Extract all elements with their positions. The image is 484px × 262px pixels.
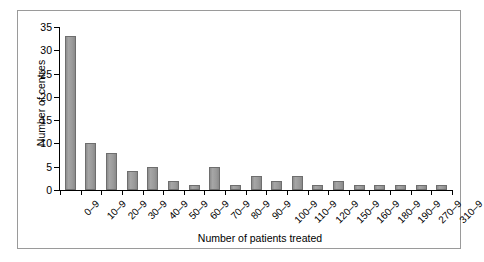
y-tick-mark [54, 74, 59, 75]
y-tick-label: 30 [26, 45, 52, 55]
y-tick-label: 15 [26, 115, 52, 125]
y-tick-mark [54, 97, 59, 98]
x-tick-mark [184, 191, 185, 195]
y-tick-label: 35 [26, 22, 52, 32]
x-axis-label: Number of patients treated [140, 232, 380, 244]
x-tick-mark [308, 191, 309, 195]
bar [416, 185, 427, 190]
y-tick-mark [54, 167, 59, 168]
bar [312, 185, 323, 190]
bar [292, 176, 303, 190]
x-tick-mark [287, 191, 288, 195]
bar [436, 185, 447, 190]
bar [209, 167, 220, 190]
bar [374, 185, 385, 190]
bar [395, 185, 406, 190]
y-tick-mark [54, 27, 59, 28]
bar [251, 176, 262, 190]
x-tick-mark [349, 191, 350, 195]
bar [271, 181, 282, 190]
bar [147, 167, 158, 190]
x-tick-mark [143, 191, 144, 195]
x-tick-mark [452, 191, 453, 195]
x-tick-mark [60, 191, 61, 195]
x-tick-mark [204, 191, 205, 195]
y-tick-mark [54, 190, 59, 191]
y-tick-label: 25 [26, 69, 52, 79]
x-tick-mark [225, 191, 226, 195]
bar [333, 181, 344, 190]
y-axis-tick-labels: 05101520253035 [22, 0, 52, 262]
bar [85, 143, 96, 190]
x-tick-mark [81, 191, 82, 195]
y-tick-label: 5 [26, 162, 52, 172]
bar [189, 185, 200, 190]
x-tick-mark [122, 191, 123, 195]
bar [230, 185, 241, 190]
bar [65, 36, 76, 190]
x-tick-mark [266, 191, 267, 195]
x-tick-mark [431, 191, 432, 195]
x-tick-mark [369, 191, 370, 195]
x-axis-line [59, 190, 453, 191]
bar [106, 153, 117, 190]
x-tick-mark [411, 191, 412, 195]
x-tick-mark [163, 191, 164, 195]
x-tick-mark [101, 191, 102, 195]
y-tick-mark [54, 143, 59, 144]
y-tick-label: 20 [26, 92, 52, 102]
bar [127, 171, 138, 190]
y-tick-mark [54, 120, 59, 121]
x-tick-mark [328, 191, 329, 195]
bar [168, 181, 179, 190]
y-tick-label: 0 [26, 185, 52, 195]
y-axis-line [59, 27, 60, 191]
bar [354, 185, 365, 190]
y-tick-mark [54, 50, 59, 51]
x-tick-mark [246, 191, 247, 195]
x-tick-mark [390, 191, 391, 195]
y-tick-label: 10 [26, 138, 52, 148]
